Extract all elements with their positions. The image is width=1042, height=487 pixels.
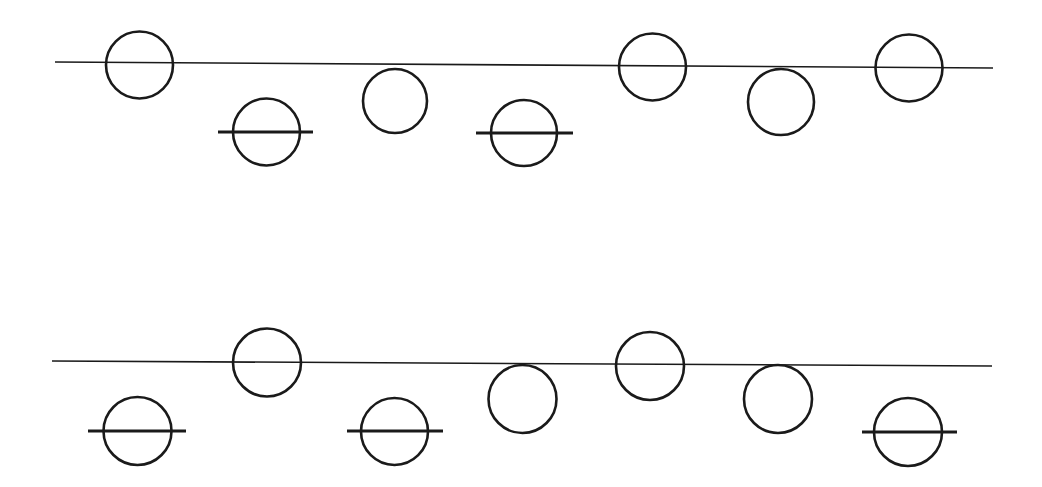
bottom-row-group [52,329,992,467]
top-baseline [55,62,993,68]
figure-root [52,32,993,467]
circles-on-lines-figure [0,0,1042,487]
circle-top-c1 [106,32,173,99]
circle-top-c6 [748,69,814,135]
top-row-group [55,32,993,167]
circle-bot-c4 [489,365,557,433]
circle-bot-c5 [616,332,684,400]
circle-top-c5 [619,34,686,101]
circle-top-c3 [363,69,427,133]
circle-bot-c6 [744,365,812,433]
figure-canvas [0,0,1042,487]
